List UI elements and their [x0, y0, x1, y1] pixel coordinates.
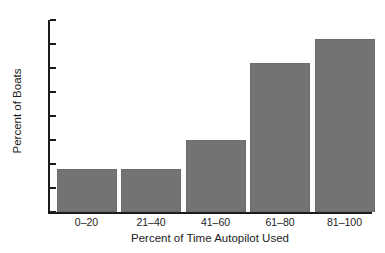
bar — [121, 169, 181, 212]
plot-area — [48, 20, 372, 212]
bar-series — [50, 20, 373, 212]
y-axis-title: Percent of Boats — [11, 51, 23, 171]
bar — [186, 140, 246, 212]
bar — [315, 39, 375, 212]
cut-off-title-remnant — [0, 0, 385, 1]
bar — [57, 169, 117, 212]
x-axis-title: Percent of Time Autopilot Used — [48, 232, 372, 244]
bar — [250, 63, 310, 212]
x-axis-tick-label: 81–100 — [298, 216, 385, 228]
bar-chart-figure: Percent of Boats 0510152025303540 0–2021… — [0, 0, 385, 253]
x-axis-spine — [48, 212, 372, 214]
x-axis-tick-labels: 0–2021–4041–6061–8081–100 — [48, 216, 372, 230]
